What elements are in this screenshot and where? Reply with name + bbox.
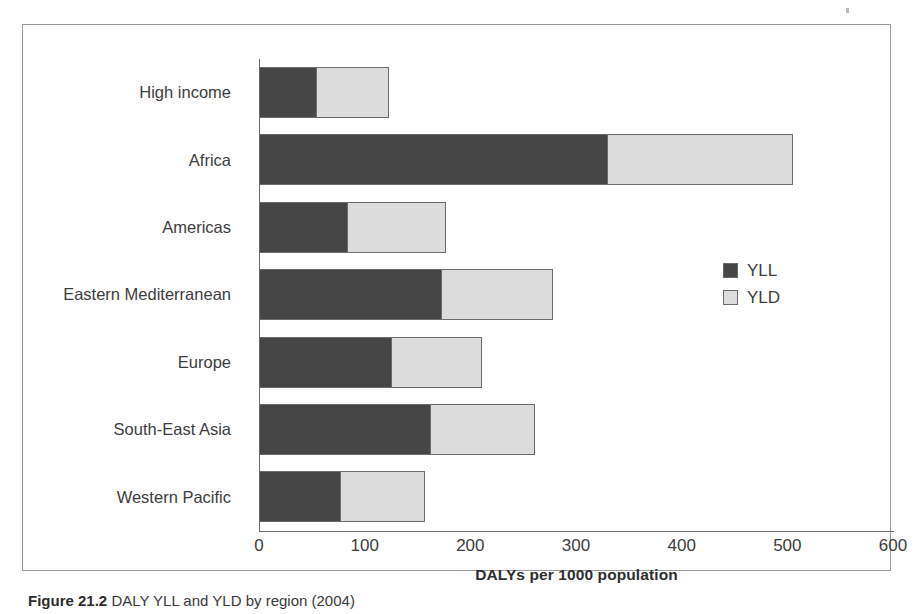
chart-legend: YLL YLD	[723, 257, 780, 311]
scan-artifact-speck	[846, 8, 849, 13]
bar-row	[259, 329, 893, 396]
y-axis-label-western-pacific: Western Pacific	[23, 463, 245, 530]
figure-caption-number: Figure 21.2	[28, 592, 107, 609]
bar-row	[259, 126, 893, 193]
bar-row	[259, 59, 893, 126]
bar-segment-yll	[260, 405, 430, 454]
bar-segment-yll	[260, 472, 340, 521]
plot-area	[259, 59, 893, 531]
bar-segment-yld	[391, 338, 481, 387]
x-axis-tick-label: 400	[667, 536, 695, 556]
legend-label-yll: YLL	[747, 261, 777, 281]
legend-label-yld: YLD	[747, 288, 780, 308]
bar-segment-yll	[260, 203, 347, 252]
bar-segment-yll	[260, 68, 316, 117]
x-axis-tick-label: 0	[254, 536, 263, 556]
legend-item-yld: YLD	[723, 284, 780, 311]
bar-segment-yld	[347, 203, 445, 252]
y-axis-label-africa: Africa	[23, 126, 245, 193]
y-axis-label-south-east-asia: South-East Asia	[23, 396, 245, 463]
y-axis-label-eastern-mediterranean: Eastern Mediterranean	[23, 261, 245, 328]
x-axis-tick-label: 100	[350, 536, 378, 556]
bar-row	[259, 194, 893, 261]
bar-row	[259, 261, 893, 328]
figure-caption-text: DALY YLL and YLD by region (2004)	[111, 592, 355, 609]
bar-segment-yld	[441, 270, 552, 319]
chart-frame: High income Africa Americas Eastern Medi…	[22, 24, 891, 571]
stacked-bar	[259, 404, 535, 455]
legend-swatch-yld-icon	[723, 290, 738, 305]
bar-row	[259, 463, 893, 530]
stacked-bar	[259, 134, 793, 185]
stacked-bar	[259, 337, 482, 388]
legend-swatch-yll-icon	[723, 263, 738, 278]
y-axis-category-labels: High income Africa Americas Eastern Medi…	[23, 59, 245, 531]
bar-segment-yll	[260, 135, 607, 184]
figure-root: High income Africa Americas Eastern Medi…	[0, 0, 915, 614]
bar-row	[259, 396, 893, 463]
x-axis-tick-labels: 0100200300400500600	[259, 536, 894, 562]
x-axis-tick-label: 500	[773, 536, 801, 556]
stacked-bar	[259, 202, 446, 253]
bar-segment-yld	[607, 135, 792, 184]
bar-segment-yll	[260, 338, 391, 387]
x-axis-title: DALYs per 1000 population	[259, 566, 894, 584]
bar-segment-yld	[316, 68, 388, 117]
y-axis-label-americas: Americas	[23, 194, 245, 261]
y-axis-label-europe: Europe	[23, 329, 245, 396]
bar-segment-yld	[340, 472, 424, 521]
stacked-bar	[259, 67, 389, 118]
x-axis-tick-label: 200	[456, 536, 484, 556]
bar-segment-yll	[260, 270, 441, 319]
stacked-bar	[259, 471, 425, 522]
stacked-bar	[259, 269, 553, 320]
y-axis-label-high-income: High income	[23, 59, 245, 126]
x-axis-line	[259, 531, 894, 532]
bar-segment-yld	[430, 405, 534, 454]
figure-caption: Figure 21.2 DALY YLL and YLD by region (…	[28, 592, 355, 614]
x-axis-tick-label: 300	[562, 536, 590, 556]
legend-item-yll: YLL	[723, 257, 780, 284]
bar-rows	[259, 59, 893, 531]
x-axis-tick-label: 600	[879, 536, 907, 556]
